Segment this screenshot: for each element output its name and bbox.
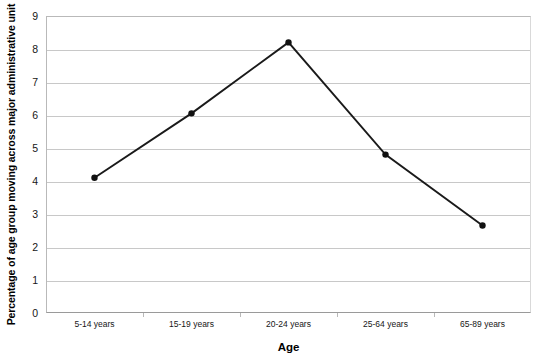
data-point bbox=[479, 222, 485, 228]
x-tick-mark bbox=[240, 313, 241, 317]
data-point bbox=[285, 39, 291, 45]
series-layer bbox=[0, 0, 548, 364]
data-point bbox=[188, 110, 194, 116]
x-tick-mark bbox=[143, 313, 144, 317]
x-axis-title: Age bbox=[46, 341, 531, 353]
line-chart: Percentage of age group moving across ma… bbox=[0, 0, 548, 364]
series-markers bbox=[91, 39, 485, 229]
x-tick-mark bbox=[434, 313, 435, 317]
data-point bbox=[91, 175, 97, 181]
data-point bbox=[382, 151, 388, 157]
x-tick-mark bbox=[337, 313, 338, 317]
series-line bbox=[95, 42, 483, 225]
